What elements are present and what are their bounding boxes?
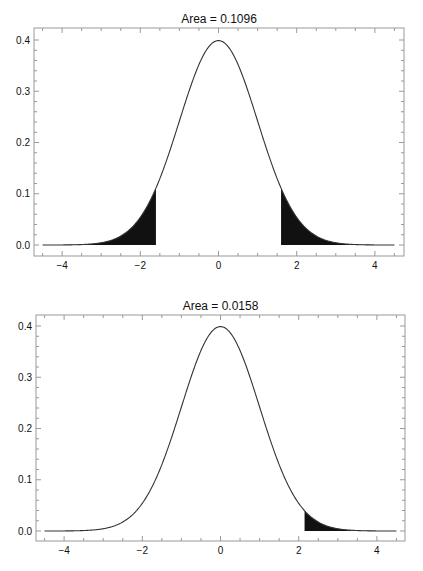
y-tick-label: 0.2 <box>16 137 30 148</box>
y-tick-label: 0.0 <box>18 526 32 537</box>
x-tick-label: 0 <box>216 260 222 271</box>
x-tick-label: −4 <box>56 260 68 271</box>
x-tick-label: 0 <box>218 545 224 556</box>
x-tick-label: 2 <box>294 260 300 271</box>
x-tick-label: 4 <box>374 545 380 556</box>
x-tick-label: −4 <box>58 545 70 556</box>
y-tick-label: 0.4 <box>16 35 30 46</box>
plot-canvas: Area = 0.0158−4−20240.00.10.20.30.4 <box>0 285 423 571</box>
shaded-tail-region <box>281 188 394 245</box>
y-tick-label: 0.3 <box>18 372 32 383</box>
plot-frame <box>34 28 404 256</box>
shaded-tail-region <box>305 511 397 531</box>
y-tick-label: 0.3 <box>16 86 30 97</box>
chart-title: Area = 0.1096 <box>181 12 257 26</box>
x-tick-label: 4 <box>372 260 378 271</box>
plot-frame <box>36 315 405 541</box>
chart-title: Area = 0.0158 <box>183 299 259 313</box>
plot-canvas: Area = 0.1096−4−20240.00.10.20.30.4 <box>0 0 423 285</box>
x-tick-label: −2 <box>135 260 147 271</box>
x-tick-label: 2 <box>296 545 302 556</box>
normal-density-curve <box>43 41 395 245</box>
y-tick-label: 0.4 <box>18 321 32 332</box>
y-tick-label: 0.1 <box>16 188 30 199</box>
chart-two-tailed: Area = 0.1096−4−20240.00.10.20.30.4 <box>0 0 423 285</box>
y-tick-label: 0.0 <box>16 240 30 251</box>
y-tick-label: 0.1 <box>18 474 32 485</box>
chart-right-tailed: Area = 0.0158−4−20240.00.10.20.30.4 <box>0 285 423 571</box>
shaded-tail-region <box>43 188 156 245</box>
x-tick-label: −2 <box>137 545 149 556</box>
y-tick-label: 0.2 <box>18 423 32 434</box>
normal-density-curve <box>45 327 397 531</box>
